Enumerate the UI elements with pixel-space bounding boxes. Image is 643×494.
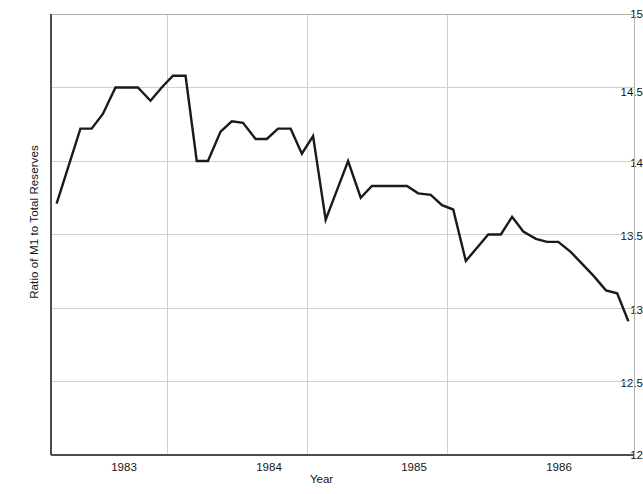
grid-lines bbox=[51, 14, 634, 455]
data-series-line bbox=[57, 76, 629, 321]
plot-area bbox=[0, 0, 643, 494]
chart-figure: Ratio of M1 to Total Reserves Year 15 14… bbox=[0, 0, 643, 494]
